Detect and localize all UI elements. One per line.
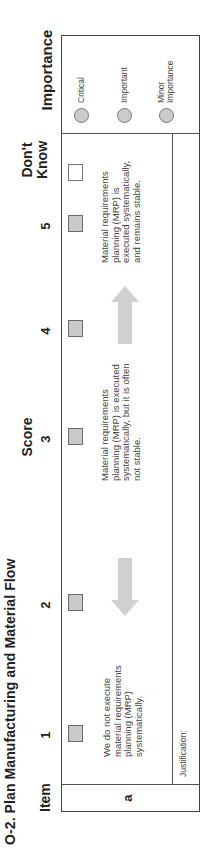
score-checkbox-4[interactable] [68,320,83,337]
assessment-table: a We do not execute material requirement… [61,35,200,812]
score-header-4: 4 [38,321,53,341]
header-dont-know: Don't Know [20,135,50,185]
score-header-2: 2 [38,595,53,615]
importance-label-minor: Minor Importance [157,60,175,103]
description-score-5: Material requirements planning (MRP) is … [100,155,142,263]
page-title: O-2. Plan Manufacturing and Material Flo… [2,559,18,845]
radio-important[interactable] [117,108,132,123]
description-score-3: Material requirements planning (MRP) is … [100,363,142,481]
radio-minor[interactable] [159,108,174,123]
dont-know-checkbox[interactable] [68,164,83,181]
header-item: Item [37,786,53,812]
arrow-right-icon [110,286,140,346]
description-score-1: We do not execute material requirements … [102,662,144,757]
importance-label-critical: Critical [77,77,86,103]
score-checkbox-2[interactable] [68,594,83,611]
importance-options: Critical Important Minor Importance [68,38,179,123]
arrow-left-icon [110,556,140,616]
rotated-page: O-2. Plan Manufacturing and Material Flo… [0,0,209,865]
justification-field[interactable] [172,134,199,785]
radio-critical[interactable] [74,108,89,123]
score-checkbox-3[interactable] [68,428,83,445]
importance-option-important[interactable]: Important [105,38,144,123]
importance-option-critical[interactable]: Critical [68,38,94,123]
score-header-3: 3 [38,429,53,449]
header-importance: Importance [38,15,55,125]
score-header-5: 5 [38,216,53,236]
header-dont-know-line1: Don't [20,135,35,185]
score-checkbox-1[interactable] [68,725,83,742]
item-label-a: a [120,785,135,811]
importance-option-minor[interactable]: Minor Importance [153,38,179,123]
score-header-1: 1 [38,725,53,745]
header-dont-know-line2: Know [35,135,50,185]
score-checkbox-5[interactable] [68,215,83,232]
importance-label-important: Important [120,67,129,103]
header-score: Score [19,407,35,467]
